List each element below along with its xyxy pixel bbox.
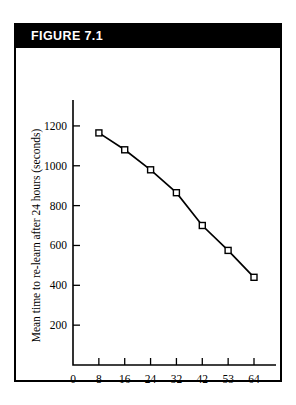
y-axis-tick-label: 1200 <box>44 120 67 132</box>
y-axis-title: Mean time to re-learn after 24 hours (se… <box>30 129 43 343</box>
y-axis-tick-label: 400 <box>50 279 68 291</box>
x-axis-tick-label: 8 <box>96 373 102 384</box>
figure-card: FIGURE 7.1 20040060080010001200081624324… <box>14 23 282 382</box>
y-axis-tick-label: 600 <box>50 239 68 251</box>
y-axis-tick-label: 200 <box>50 319 68 331</box>
x-axis-tick-label: 64 <box>248 373 260 384</box>
chart-axes <box>73 100 276 365</box>
data-point-marker[interactable] <box>96 130 102 136</box>
figure-header-bar: FIGURE 7.1 <box>14 23 282 48</box>
data-point-marker[interactable] <box>199 223 205 229</box>
x-axis-tick-label: 24 <box>145 373 157 384</box>
chart-plot-area: 2004006008001000120008162432425364No. of… <box>14 48 282 384</box>
x-axis-tick-label: 42 <box>197 373 209 384</box>
x-axis-tick-label: 53 <box>222 373 234 384</box>
data-point-marker[interactable] <box>173 190 179 196</box>
x-axis-tick-label: 0 <box>70 373 76 384</box>
x-axis-tick-label: 32 <box>171 373 183 384</box>
y-axis-tick-label: 1000 <box>44 160 67 172</box>
data-point-marker[interactable] <box>225 247 231 253</box>
data-point-marker[interactable] <box>251 274 257 280</box>
data-point-marker[interactable] <box>122 147 128 153</box>
x-axis-tick-label: 16 <box>119 373 131 384</box>
data-point-marker[interactable] <box>148 167 154 173</box>
line-chart: 2004006008001000120008162432425364No. of… <box>14 48 282 384</box>
data-series-line <box>99 133 254 277</box>
y-axis-tick-label: 800 <box>50 200 68 212</box>
figure-number-label: FIGURE 7.1 <box>31 29 103 43</box>
